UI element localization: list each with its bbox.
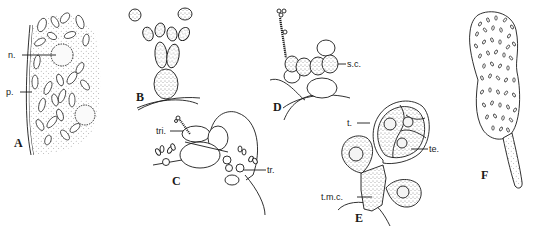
branch-cell (154, 42, 168, 69)
lateral-cell-nucleus (397, 186, 409, 198)
detached-cell (129, 9, 141, 21)
panel-e: t. te. t.m.c. E (321, 101, 439, 226)
label-n: n. (8, 50, 16, 60)
terminal-cell (154, 22, 166, 38)
panel-f: F (470, 12, 523, 188)
mother-cell (361, 165, 386, 211)
host-stem (245, 175, 265, 215)
lateral-cell-nucleus (349, 147, 363, 161)
panel-label-a: A (14, 136, 23, 150)
rhizoid (503, 133, 522, 188)
support-cell (307, 78, 337, 98)
host-curve (270, 79, 305, 100)
panel-label-d: D (273, 100, 282, 114)
terminal-cell (166, 26, 178, 42)
host-curve (137, 100, 198, 108)
panel-a: n. p. A (6, 11, 100, 155)
filament (280, 18, 286, 58)
tetraspore-nucleus (384, 118, 396, 130)
tetraspore-nucleus (403, 117, 413, 127)
label-sc: s.c. (347, 59, 361, 69)
panel-c: tri. tr. C (137, 100, 275, 215)
trichome-branch-left (153, 143, 182, 165)
panel-label-f: F (481, 168, 488, 182)
label-tri: tri. (156, 126, 166, 136)
trichome-cluster-right (223, 146, 258, 185)
panel-b: B (129, 8, 200, 110)
label-tmc: t.m.c. (321, 192, 343, 202)
panel-label-e: E (355, 211, 363, 225)
panel-label-c: C (172, 174, 181, 188)
figure-plate: n. p. A B (0, 0, 536, 233)
terminal-cell (141, 26, 155, 43)
detached-cell (178, 8, 192, 20)
stalk-cell (322, 55, 338, 73)
label-p: p. (6, 87, 14, 97)
panel-label-b: B (136, 90, 144, 104)
basal-cell (154, 69, 178, 99)
nucleus-2 (75, 105, 95, 125)
terminal-cell (176, 25, 192, 42)
branch-cell (165, 43, 181, 69)
label-t: t. (347, 118, 352, 128)
top-cell (317, 40, 335, 56)
tetraspore-nucleus (397, 138, 407, 148)
label-tr: tr. (267, 165, 275, 175)
panel-d: s.c. D (270, 9, 361, 120)
label-te: te. (429, 144, 439, 154)
